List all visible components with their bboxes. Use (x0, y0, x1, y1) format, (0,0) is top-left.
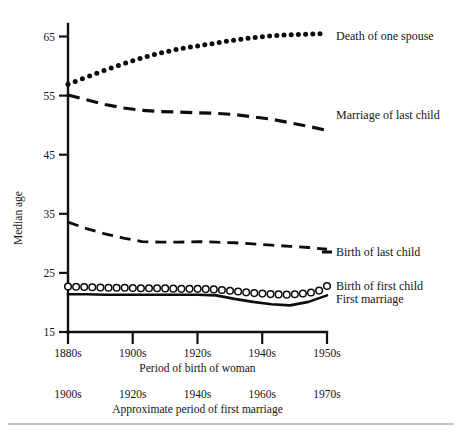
x-tick-label-primary-1900s: 1900s (119, 347, 147, 359)
series-layer (65, 31, 332, 305)
x-axis-title-primary: Period of birth of woman (139, 362, 256, 374)
series-label-marriage-of-last-child: Marriage of last child (336, 108, 440, 122)
x-tick-label-secondary-1960s: 1960s (248, 388, 276, 400)
x-tick-label-secondary-1900s: 1900s (54, 388, 82, 400)
y-tick-label-35: 35 (44, 208, 56, 220)
series-label-birth-of-last-child: Birth of last child (336, 245, 420, 259)
y-tick-label-55: 55 (44, 90, 56, 102)
x-axis-ticks (68, 332, 327, 344)
y-tick-label-15: 15 (44, 326, 56, 338)
series-death-of-one-spouse (66, 31, 323, 87)
y-tick-label-25: 25 (44, 267, 56, 279)
x-tick-label-secondary-1970s: 1970s (313, 388, 341, 400)
series-label-death-of-one-spouse: Death of one spouse (336, 29, 434, 43)
series-birth-of-last-child (68, 222, 327, 249)
x-tick-label-secondary-1920s: 1920s (119, 388, 147, 400)
chart-canvas: 65 55 45 35 25 15 Median age 1880s 1900s… (0, 0, 462, 435)
series-label-birth-of-first-child: Birth of first child (336, 279, 423, 293)
x-tick-label-primary-1940s: 1940s (248, 347, 276, 359)
series-marriage-of-last-child (68, 95, 327, 130)
legend-swatches (322, 252, 332, 289)
x-tick-label-primary-1920s: 1920s (184, 347, 212, 359)
x-tick-label-primary-1950s: 1950s (313, 347, 341, 359)
x-axis-title-secondary: Approximate period of first marriage (112, 403, 283, 416)
x-tick-label-secondary-1940s: 1940s (184, 388, 212, 400)
series-label-first-marriage: First marriage (336, 292, 404, 306)
y-axis-title: Median age (12, 191, 25, 245)
figure-container: 65 55 45 35 25 15 Median age 1880s 1900s… (0, 0, 462, 435)
y-tick-label-65: 65 (44, 31, 56, 43)
x-tick-label-primary-1880s: 1880s (54, 347, 82, 359)
y-tick-label-45: 45 (44, 149, 56, 161)
